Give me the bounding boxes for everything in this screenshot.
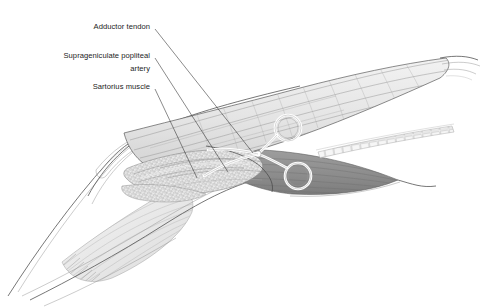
- segmented-band: [316, 124, 454, 158]
- anatomical-illustration: Adductor tendon Suprageniculate poplitea…: [0, 0, 485, 308]
- label-adductor-tendon: Adductor tendon: [94, 22, 150, 31]
- label-suprageniculate-popliteal-artery-line2: artery: [130, 64, 150, 73]
- label-sartorius-muscle: Sartorius muscle: [93, 82, 150, 91]
- labels: Adductor tendon Suprageniculate poplitea…: [63, 22, 150, 91]
- label-suprageniculate-popliteal-artery-line1: Suprageniculate popliteal: [63, 51, 150, 60]
